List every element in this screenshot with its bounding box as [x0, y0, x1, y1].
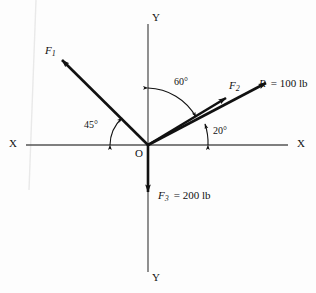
angle-label-60: 60° — [174, 77, 188, 87]
vector-magnitude-f3: = 200 lb — [174, 189, 211, 201]
origin-label: O — [135, 148, 143, 159]
vector-magnitude-r: = 100 lb — [271, 77, 308, 89]
y-axis-label-bottom: Y — [152, 272, 160, 283]
vector-label-f1-subscript: 1 — [52, 49, 56, 58]
angle-label-20: 20° — [213, 126, 227, 136]
angle-label-45: 45° — [84, 120, 98, 130]
angle-arc-45 — [110, 118, 122, 145]
vector-label-f2: F2 — [229, 80, 240, 93]
y-axis-label-top: Y — [152, 12, 160, 23]
x-axis-label-left: X — [9, 138, 17, 149]
x-axis-label-right: X — [297, 138, 305, 149]
vector-label-f2-letter: F — [229, 79, 236, 91]
angle-arc-20 — [205, 124, 208, 145]
vector-label-f3-letter: F — [158, 189, 165, 201]
vector-r — [148, 83, 266, 145]
scan-artifact-line — [29, 0, 36, 190]
vector-label-r-letter: R — [259, 77, 266, 89]
angle-arc-60 — [148, 88, 196, 117]
vector-f1 — [62, 60, 148, 145]
vector-label-f1: F1 — [45, 45, 56, 58]
vector-label-f1-letter: F — [45, 44, 52, 56]
vector-label-r: R= 100 lb — [259, 78, 308, 89]
vector-label-f2-subscript: 2 — [236, 84, 240, 93]
vector-label-f3-subscript: 3 — [165, 194, 169, 203]
vector-label-f3: F3= 200 lb — [158, 190, 211, 203]
force-vector-diagram: X X Y Y O F1 F2 R= 100 lb F3= 200 lb 45°… — [0, 0, 316, 293]
